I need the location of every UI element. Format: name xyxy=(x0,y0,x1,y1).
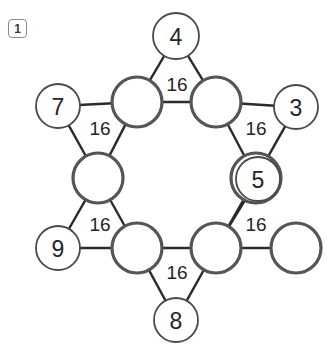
node-label-leaf-upper-left: 7 xyxy=(52,94,65,120)
hub-node-hub-bottom-right[interactable] xyxy=(191,223,241,273)
graph-edge xyxy=(148,269,166,301)
hub-node-hub-left[interactable] xyxy=(73,153,123,203)
figure-root: 1 473598 161616161616 xyxy=(0,0,327,349)
hub-node-hub-bottom-left[interactable] xyxy=(112,223,162,273)
graph-edge xyxy=(79,103,113,105)
graph-edge xyxy=(240,103,275,105)
leaf-node-leaf-lower-right[interactable] xyxy=(271,223,321,273)
graph-canvas: 473598 161616161616 xyxy=(0,0,327,349)
graph-edge xyxy=(68,124,86,157)
edge-weight-edge-label-upper-right: 16 xyxy=(245,118,266,139)
hub-node-hub-top-right[interactable] xyxy=(191,77,241,127)
node-label-leaf-top: 4 xyxy=(170,24,183,50)
edge-weight-edge-label-upper-left: 16 xyxy=(89,118,110,139)
node-label-leaf-upper-right: 3 xyxy=(290,95,303,121)
graph-edge xyxy=(109,123,126,156)
graph-edge xyxy=(268,125,286,157)
edge-weight-edge-label-lower-left: 16 xyxy=(89,214,110,235)
edge-weight-edge-label-top: 16 xyxy=(166,74,187,95)
edge-weight-edge-label-lower-right: 16 xyxy=(245,214,266,235)
hub-node-hub-top-left[interactable] xyxy=(112,77,162,127)
node-label-leaf-mid-right: 5 xyxy=(252,167,265,193)
graph-edge xyxy=(149,55,165,81)
graph-edge xyxy=(68,199,86,230)
node-label-leaf-bottom: 8 xyxy=(170,308,183,334)
graph-edge xyxy=(187,55,203,82)
edge-weight-edge-label-bottom: 16 xyxy=(166,262,187,283)
node-label-leaf-lower-left: 9 xyxy=(52,236,65,262)
graph-edge xyxy=(227,123,245,157)
graph-edge xyxy=(110,199,126,227)
graph-edge xyxy=(186,269,204,302)
